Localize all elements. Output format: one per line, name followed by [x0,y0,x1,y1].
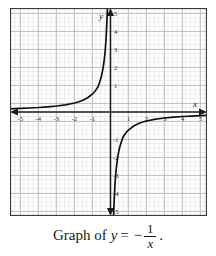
svg-text:-2: -2 [72,115,77,122]
caption-minus-sign: − [134,228,142,243]
svg-text:-1: -1 [90,115,95,122]
svg-text:5: 5 [114,10,117,17]
x-axis-label: x [192,99,197,109]
svg-text:-5: -5 [18,115,23,122]
caption-equation: Graph of y = − 1 x . [53,221,163,249]
svg-text:1: 1 [114,82,117,89]
caption-lhs-variable: y [111,228,118,243]
figure-caption: Graph of y = − 1 x . [0,218,216,256]
svg-text:1: 1 [127,115,130,122]
caption-period: . [159,228,163,243]
svg-text:2: 2 [114,64,117,71]
figure-graph-of-negative-one-over-x: y x -5 -4 -3 -2 -1 1 2 3 4 5 5 4 3 2 [0,0,216,256]
caption-prefix: Graph of [53,228,107,243]
svg-text:-1: -1 [113,136,118,143]
caption-fraction: 1 x [144,222,156,250]
plot-frame: y x -5 -4 -3 -2 -1 1 2 3 4 5 5 4 3 2 [10,8,207,216]
coordinate-plane-svg: y x -5 -4 -3 -2 -1 1 2 3 4 5 5 4 3 2 [10,8,207,216]
fraction-numerator: 1 [145,222,156,236]
y-axis-label: y [98,11,103,21]
svg-text:-4: -4 [36,115,42,122]
svg-text:3: 3 [114,46,117,53]
caption-equals-sign: = [120,228,128,243]
fraction-denominator: x [145,237,155,251]
svg-text:-3: -3 [54,115,59,122]
